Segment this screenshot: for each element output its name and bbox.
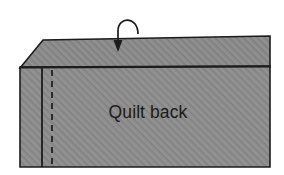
quilt-back-label: Quilt back [109, 102, 188, 122]
quilt-diagram: Quilt back [0, 0, 284, 175]
quilt-diagram-canvas: Quilt back [0, 0, 284, 175]
top-flap-band [20, 36, 270, 68]
fold-edge-line [20, 67, 270, 68]
